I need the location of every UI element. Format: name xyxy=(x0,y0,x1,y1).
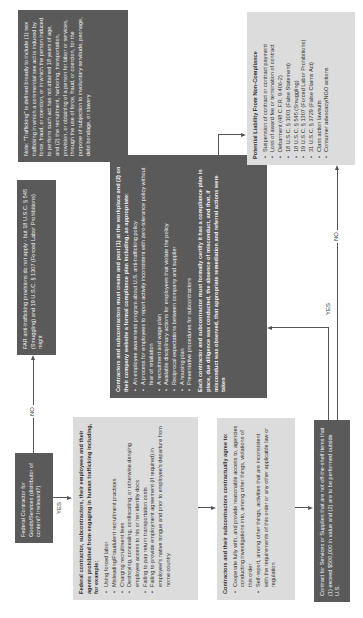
note-text: Note: "Trafficking" is defined broadly t… xyxy=(23,16,92,156)
prohibited-item: Destroying, concealing, confiscating, or… xyxy=(126,423,141,587)
prohibited-item: Using forced labor xyxy=(103,423,111,587)
prohibited-item: Failing to pay return transportation cos… xyxy=(142,423,150,587)
arrow-down-icon xyxy=(211,506,216,510)
contractual-item: Cooperate fully with, and provide reason… xyxy=(232,424,255,587)
arrow-up-icon xyxy=(267,326,272,330)
prohibited-item: Failing to provide employment agreement … xyxy=(149,423,172,587)
start-box: Federal Contractor for Goods/Services (d… xyxy=(15,453,53,543)
compliance-item: An employee awareness program about U.S.… xyxy=(132,161,140,385)
liability-item: 18 U.S.C. § 545 (Smuggling) xyxy=(293,18,301,152)
compliance-plan-list: An employee awareness program about U.S.… xyxy=(132,161,194,392)
compliance-plan-box: Contractors and subcontractors must crea… xyxy=(110,155,267,398)
arrow-down-icon xyxy=(67,496,72,500)
connector-services-no xyxy=(337,170,338,420)
contractual-item: Self-report, among other things, activit… xyxy=(255,424,278,587)
compliance-item: Preventative procedures for subcontracto… xyxy=(186,161,194,385)
edge-label-services-yes: YES xyxy=(325,301,331,317)
liability-item: 31 U.S.C. § 3729 (False Claims Act) xyxy=(308,18,316,152)
contractual-title: Contractors and their subcontractors con… xyxy=(222,424,230,594)
note-box: Note: "Trafficking" is defined broadly t… xyxy=(18,10,128,162)
liability-item: Loss of award fee or termination of cont… xyxy=(269,18,277,152)
liability-item: Debarment (48 C.F.R. 9.406-2) xyxy=(277,18,285,152)
prohibited-box: Federal contractor, subcontractors, thei… xyxy=(73,417,198,600)
connector-services-yes-h xyxy=(328,328,329,420)
contract-services-text: Contract for Services or Supplies that a… xyxy=(319,426,342,596)
edge-label-no: NO xyxy=(29,405,35,418)
liability-title: Potential Liability From Non-Compliance xyxy=(252,18,260,159)
connector-services-yes-v xyxy=(272,327,329,328)
arrow-right-icon xyxy=(335,165,339,170)
edge-label-services-no: NO xyxy=(333,230,339,243)
liability-item: 18 U.S.C. § 1001 (False Statement) xyxy=(285,18,293,152)
connector-compliance-liability-h xyxy=(218,134,242,135)
connector-prohibited-contractual xyxy=(198,507,212,508)
far-not-apply-text: FAR anti-trafficking provisions do not a… xyxy=(22,186,45,349)
prohibited-title: Federal contractor, subcontractors, thei… xyxy=(78,423,101,594)
compliance-item: A process for employees to report activi… xyxy=(140,161,155,385)
liability-list: Suspension of contract or contract payme… xyxy=(262,18,331,159)
prohibited-list: Using forced labor Misleading/Fraudulent… xyxy=(103,423,172,594)
contractual-list: Cooperate fully with, and provide reason… xyxy=(232,424,278,594)
connector-compliance-liability-v xyxy=(218,135,219,155)
liability-item: Suspension of contract or contract payme… xyxy=(262,18,270,152)
contractual-box: Contractors and their subcontractors con… xyxy=(217,418,295,600)
compliance-item: A recruitment and wage plan xyxy=(156,161,164,385)
compliance-item: Reciprocal expectations between company … xyxy=(171,161,179,385)
liability-box: Potential Liability From Non-Compliance … xyxy=(247,12,355,165)
edge-label-yes: YES xyxy=(56,500,62,516)
compliance-plan-title: Contractors and subcontractors must crea… xyxy=(115,161,130,392)
compliance-item: Available disciplinary actions for emplo… xyxy=(163,161,171,385)
connector-contractual-services xyxy=(295,507,309,508)
prohibited-item: Charging recruitment fees xyxy=(119,423,127,587)
start-text: Federal Contractor for Goods/Services (d… xyxy=(20,459,43,537)
connector-start-yes xyxy=(53,497,68,498)
arrow-right-icon xyxy=(31,355,35,360)
liability-item: 19 U.S.C. § 1307 (Forced Labor Prohibiti… xyxy=(300,18,308,152)
liability-item: Consumer advocacy/NGO actions xyxy=(323,18,331,152)
far-not-apply-box: FAR anti-trafficking provisions do not a… xyxy=(17,180,56,355)
contract-services-box: Contract for Services or Supplies that a… xyxy=(314,420,350,602)
compliance-closing: Each contractor and subcontractor must f… xyxy=(197,161,228,392)
prohibited-item: Misleading/Fraudulent recruitment practi… xyxy=(111,423,119,587)
compliance-item: A housing plan xyxy=(179,161,187,385)
arrow-down-icon xyxy=(308,506,313,510)
liability-item: Class action lawsuits xyxy=(316,18,324,152)
arrow-down-icon xyxy=(241,133,246,137)
flowchart-stage: Federal Contractor for Goods/Services (d… xyxy=(0,0,363,618)
